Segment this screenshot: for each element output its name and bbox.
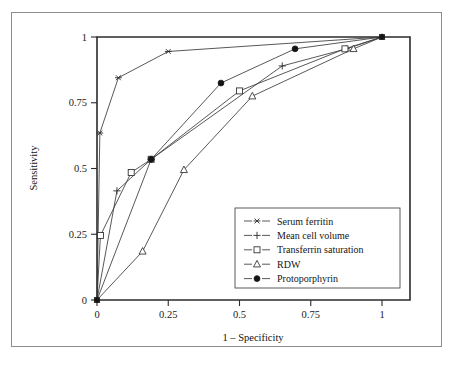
- square-marker: [128, 169, 134, 175]
- circle-marker: [254, 276, 260, 282]
- data-point-marker: [139, 248, 146, 255]
- data-point-marker: [237, 88, 243, 94]
- circle-marker: [148, 156, 154, 162]
- circle-marker: [95, 298, 100, 303]
- circle-marker: [380, 35, 385, 40]
- legend-label: RDW: [277, 259, 301, 270]
- data-point-marker: [254, 276, 260, 282]
- legend-label: Protoporphyrin: [277, 273, 338, 284]
- data-point-marker: [254, 247, 260, 253]
- data-point-marker: [148, 156, 154, 162]
- square-marker: [342, 46, 348, 52]
- legend-label: Transferrin saturation: [277, 244, 364, 255]
- x-tick-label: 0.75: [302, 309, 320, 320]
- legend: Serum ferritinMean cell volumeTransferri…: [235, 208, 400, 288]
- y-tick-label: 0.5: [74, 163, 87, 174]
- x-tick-label: 1: [379, 309, 384, 320]
- square-marker: [237, 88, 243, 94]
- circle-marker: [292, 46, 298, 52]
- data-point-marker: [249, 92, 256, 99]
- triangle-marker: [249, 92, 256, 99]
- y-tick-label: 0.25: [69, 229, 87, 240]
- square-marker: [254, 247, 260, 253]
- data-point-marker: [279, 62, 286, 69]
- data-point-marker: [380, 35, 385, 40]
- y-axis-title: Sensitivity: [28, 145, 39, 191]
- data-point-marker: [218, 80, 224, 86]
- y-axis-ticks: 00.250.50.751: [69, 32, 97, 306]
- square-marker: [97, 233, 103, 239]
- circle-marker: [218, 80, 224, 86]
- data-point-marker: [128, 169, 134, 175]
- triangle-marker: [139, 248, 146, 255]
- roc-chart: 00.250.50.751 00.250.50.751 1 – Specific…: [0, 0, 455, 370]
- y-tick-label: 1: [82, 32, 87, 43]
- x-axis-ticks: 00.250.50.751: [94, 300, 384, 320]
- data-point-marker: [95, 298, 100, 303]
- y-tick-label: 0: [82, 295, 87, 306]
- x-tick-label: 0.5: [233, 309, 246, 320]
- data-point-marker: [97, 233, 103, 239]
- x-axis-title: 1 – Specificity: [222, 332, 284, 343]
- x-tick-label: 0: [94, 309, 99, 320]
- data-point-marker: [292, 46, 298, 52]
- legend-label: Serum ferritin: [277, 216, 333, 227]
- legend-label: Mean cell volume: [277, 230, 350, 241]
- data-point-marker: [342, 46, 348, 52]
- x-tick-label: 0.25: [159, 309, 177, 320]
- y-tick-label: 0.75: [69, 97, 87, 108]
